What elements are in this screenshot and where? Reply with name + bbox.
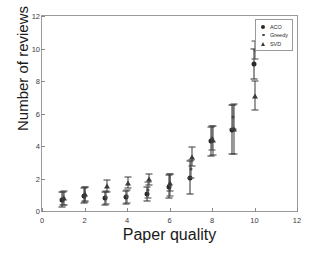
- x-axis-tick-label: 10: [250, 216, 258, 225]
- x-axis-tick: [85, 208, 86, 212]
- error-bar-cap: [187, 177, 194, 178]
- x-axis-tick-label: 4: [125, 216, 129, 225]
- triangle-icon: [259, 42, 268, 46]
- error-bar-cap: [103, 180, 110, 181]
- x-axis-tick-label: 0: [40, 216, 44, 225]
- x-axis-tick: [212, 208, 213, 212]
- x-axis-tick-label: 8: [210, 216, 214, 225]
- data-point-svd[interactable]: [146, 177, 152, 182]
- error-bar-cap: [186, 193, 193, 194]
- error-bar-cap: [103, 191, 110, 192]
- y-axis-tick-label: 12: [30, 12, 40, 21]
- data-point-svd[interactable]: [125, 180, 131, 185]
- plot-frame: 024681012024681012 ACO Greedy SVD: [41, 15, 298, 212]
- error-bar-cap: [102, 203, 109, 204]
- y-axis-tick: [41, 81, 45, 82]
- y-axis-tick: [41, 114, 45, 115]
- legend-item-svd[interactable]: SVD: [259, 40, 288, 48]
- error-bar-cap: [231, 103, 238, 104]
- y-axis-tick: [41, 16, 45, 17]
- error-bar-cap: [61, 190, 68, 191]
- error-bar-cap: [145, 198, 152, 199]
- y-axis-title: Number of reviews: [14, 0, 31, 144]
- data-point-svd[interactable]: [210, 138, 216, 143]
- y-axis-tick-label: 4: [30, 142, 40, 151]
- small-dot-icon: [259, 34, 268, 37]
- y-axis-tick-label: 6: [30, 109, 40, 118]
- error-bar-cap: [124, 188, 131, 189]
- y-axis-tick-label: 10: [30, 44, 40, 53]
- y-axis-tick-label: 2: [30, 174, 40, 183]
- legend-label: ACO: [270, 24, 282, 30]
- x-axis-tick: [170, 208, 171, 212]
- x-axis-tick: [127, 208, 128, 212]
- x-axis-title: Paper quality: [41, 226, 298, 244]
- data-point-svd[interactable]: [252, 93, 258, 98]
- error-bar-cap: [82, 201, 89, 202]
- legend-item-greedy[interactable]: Greedy: [259, 31, 288, 39]
- error-bar-cap: [231, 154, 238, 155]
- error-bar-cap: [59, 206, 66, 207]
- y-axis-tick: [41, 179, 45, 180]
- legend-label: SVD: [270, 41, 281, 47]
- error-bar-cap: [166, 195, 173, 196]
- data-point-greedy[interactable]: [147, 188, 150, 191]
- data-point-svd[interactable]: [104, 183, 110, 188]
- error-bar-cap: [209, 154, 216, 155]
- error-bar-cap: [188, 146, 195, 147]
- legend-label: Greedy: [270, 32, 288, 38]
- x-axis-tick-label: 12: [293, 216, 301, 225]
- error-bar-cap: [82, 186, 89, 187]
- data-point-svd[interactable]: [82, 191, 88, 196]
- legend-item-aco[interactable]: ACO: [259, 23, 288, 31]
- error-bar-cap: [146, 173, 153, 174]
- y-axis-tick: [41, 146, 45, 147]
- error-bar-cap: [61, 205, 68, 206]
- x-axis-tick-label: 2: [82, 216, 86, 225]
- error-bar-cap: [124, 189, 131, 190]
- data-point-greedy[interactable]: [189, 167, 192, 170]
- data-point-svd[interactable]: [61, 196, 67, 201]
- error-bar-cap: [252, 81, 259, 82]
- x-axis-tick-label: 6: [167, 216, 171, 225]
- x-axis-tick: [255, 208, 256, 212]
- error-bar-cap: [144, 201, 151, 202]
- x-axis-tick: [297, 208, 298, 212]
- legend[interactable]: ACO Greedy SVD: [255, 19, 293, 51]
- data-point-svd[interactable]: [189, 154, 195, 159]
- filled-circle-icon: [259, 25, 268, 29]
- error-bar-cap: [124, 176, 131, 177]
- y-axis-tick-label: 0: [30, 207, 40, 216]
- y-axis-tick: [41, 49, 45, 50]
- error-bar-cap: [167, 174, 174, 175]
- data-point-svd[interactable]: [167, 180, 173, 185]
- error-bar-cap: [167, 190, 174, 191]
- error-bar-cap: [146, 185, 153, 186]
- data-point-greedy[interactable]: [126, 195, 129, 198]
- data-point-aco[interactable]: [251, 61, 256, 66]
- error-bar-cap: [124, 202, 131, 203]
- data-point-svd[interactable]: [231, 126, 237, 131]
- error-bar-cap: [209, 125, 216, 126]
- data-point-greedy[interactable]: [104, 196, 107, 199]
- error-bar-cap: [251, 59, 258, 60]
- figure-canvas: Number of reviews Paper quality 02468101…: [0, 0, 309, 260]
- error-bar-cap: [252, 110, 259, 111]
- error-bar-cap: [188, 166, 195, 167]
- y-axis-tick-label: 8: [30, 77, 40, 86]
- y-axis-tick: [41, 211, 45, 212]
- error-bar-cap: [165, 198, 172, 199]
